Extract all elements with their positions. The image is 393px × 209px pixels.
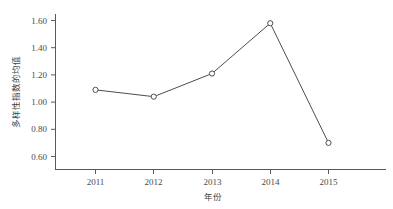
- y-tick-label: 0.60: [31, 152, 47, 162]
- y-tick-label: 1.40: [31, 43, 47, 53]
- x-axis-title: 年份: [204, 192, 222, 202]
- data-point-2014: [268, 21, 273, 26]
- y-tick-label: 1.20: [31, 70, 47, 80]
- series-markers: [93, 21, 331, 146]
- x-tick-label: 2015: [320, 177, 339, 187]
- y-axis-title: 多样性指数的均值: [11, 56, 21, 128]
- chart-canvas: 1.60 1.40 1.20 1.00 0.80 0.60 2011 2012 …: [0, 0, 393, 209]
- y-tick-label: 1.60: [31, 16, 47, 26]
- line-chart-figure: 1.60 1.40 1.20 1.00 0.80 0.60 2011 2012 …: [0, 0, 393, 209]
- series-line-diversity-index: [96, 23, 329, 143]
- data-point-2013: [209, 71, 214, 76]
- x-axis-tick-labels: 2011 2012 2013 2014 2015: [87, 177, 338, 187]
- y-axis-tick-labels: 1.60 1.40 1.20 1.00 0.80 0.60: [31, 16, 47, 162]
- y-tick-label: 0.80: [31, 124, 47, 134]
- y-axis-tickmarks: [51, 21, 56, 157]
- data-point-2011: [93, 87, 98, 92]
- data-point-2012: [151, 94, 156, 99]
- x-tick-label: 2012: [145, 177, 163, 187]
- y-tick-label: 1.00: [31, 97, 47, 107]
- x-tick-label: 2013: [204, 177, 223, 187]
- x-tick-label: 2011: [87, 177, 105, 187]
- data-point-2015: [326, 140, 331, 145]
- x-axis-tickmarks: [96, 170, 329, 175]
- x-tick-label: 2014: [262, 177, 281, 187]
